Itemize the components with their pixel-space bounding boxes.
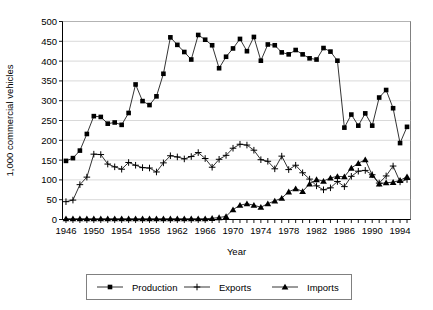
x-tick-label: 1954 — [111, 225, 132, 236]
x-axis-tick-labels: 1946195019541958196219661970197419781982… — [55, 225, 410, 236]
y-tick-label: 200 — [41, 135, 57, 146]
y-tick-label: 50 — [46, 194, 57, 205]
chart-figure: 050100150200250300350400450500 194619501… — [0, 0, 433, 310]
x-tick-label: 1950 — [83, 225, 104, 236]
y-axis-tick-labels: 050100150200250300350400450500 — [41, 16, 57, 225]
y-tick-label: 0 — [52, 214, 57, 225]
x-tick-label: 1962 — [167, 225, 188, 236]
y-tick-label: 150 — [41, 155, 57, 166]
y-tick-label: 250 — [41, 115, 57, 126]
x-tick-label: 1970 — [222, 225, 243, 236]
y-tick-label: 350 — [41, 75, 57, 86]
x-tick-label: 1990 — [362, 225, 383, 236]
legend-label: Exports — [219, 282, 251, 293]
x-tick-label: 1978 — [278, 225, 299, 236]
x-tick-label: 1982 — [306, 225, 327, 236]
y-axis — [59, 22, 63, 220]
y-tick-label: 300 — [41, 95, 57, 106]
y-tick-label: 400 — [41, 56, 57, 67]
y-tick-label: 500 — [41, 16, 57, 27]
chart-legend: ProductionExportsImports — [87, 275, 352, 300]
x-tick-label: 1974 — [250, 225, 271, 236]
x-tick-label: 1966 — [195, 225, 216, 236]
y-axis-title: 1,000 commercial vehicles — [4, 64, 15, 176]
line-chart: 050100150200250300350400450500 194619501… — [0, 0, 433, 310]
legend-label: Imports — [307, 282, 339, 293]
x-tick-label: 1958 — [139, 225, 160, 236]
y-tick-label: 450 — [41, 36, 57, 47]
x-tick-label: 1946 — [55, 225, 76, 236]
x-axis-title: Year — [227, 246, 246, 257]
legend-label: Production — [132, 282, 177, 293]
x-tick-label: 1994 — [389, 225, 410, 236]
x-tick-label: 1986 — [334, 225, 355, 236]
y-tick-label: 100 — [41, 174, 57, 185]
